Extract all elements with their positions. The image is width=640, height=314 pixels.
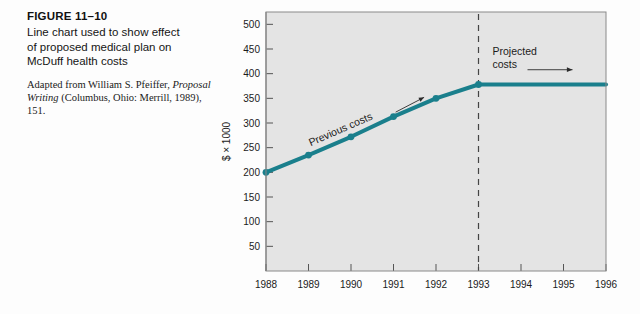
data-point-marker — [475, 81, 482, 88]
x-axis-tick-label: 1991 — [382, 279, 405, 290]
line-chart: 50100150200250300350400450500 1988198919… — [218, 6, 628, 308]
figure-title: Line chart used to show effect of propos… — [27, 25, 213, 69]
figure-source-note: Adapted from William S. Pfeiffer, Propos… — [27, 78, 213, 118]
figure-page: FIGURE 11–10 Line chart used to show eff… — [0, 0, 640, 314]
data-point-marker — [305, 152, 312, 159]
y-axis-tick-label: 200 — [243, 167, 260, 178]
y-axis-tick-label: 400 — [243, 68, 260, 79]
x-axis-tick-label: 1993 — [467, 279, 490, 290]
x-axis-tick-label: 1996 — [595, 279, 618, 290]
data-point-marker — [433, 95, 440, 102]
figure-title-line-2: of proposed medical plan on — [27, 40, 213, 55]
annotation-projected-costs-label-line2: costs — [493, 58, 518, 70]
figure-number: FIGURE 11–10 — [27, 9, 213, 23]
data-point-marker — [348, 133, 355, 140]
y-axis-tick-label: 250 — [243, 142, 260, 153]
figure-title-line-1: Line chart used to show effect — [27, 25, 213, 40]
y-axis-tick-label: 100 — [243, 216, 260, 227]
data-point-marker — [390, 113, 397, 120]
y-axis-tick-label: 50 — [249, 241, 261, 252]
x-axis-tick-label: 1994 — [510, 279, 533, 290]
y-axis-tick-label: 450 — [243, 44, 260, 55]
y-axis-title: $ × 1000 — [221, 121, 232, 161]
source-prefix: Adapted from William S. Pfeiffer, — [27, 79, 172, 90]
y-axis-tick-label: 150 — [243, 192, 260, 203]
annotation-projected-costs-label-line1: Projected — [493, 45, 538, 57]
x-axis-tick-label: 1990 — [340, 279, 363, 290]
y-axis-tick-label: 350 — [243, 93, 260, 104]
x-axis-tick-label: 1992 — [425, 279, 448, 290]
x-axis-tick-label: 1995 — [552, 279, 575, 290]
y-axis-tick-label: 300 — [243, 118, 260, 129]
figure-caption: FIGURE 11–10 Line chart used to show eff… — [27, 9, 213, 117]
x-axis-tick-label: 1988 — [255, 279, 278, 290]
chart-svg: 50100150200250300350400450500 1988198919… — [218, 6, 628, 308]
figure-title-line-3: McDuff health costs — [27, 54, 213, 69]
x-axis-tick-label: 1989 — [297, 279, 320, 290]
y-axis-tick-label: 500 — [243, 19, 260, 30]
